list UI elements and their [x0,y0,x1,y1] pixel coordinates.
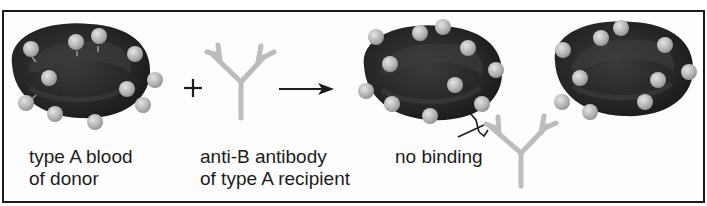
no-binding-label-text: no binding [395,146,483,168]
plus-sign [184,79,202,97]
antibody-label-line-2: of type A recipient [200,168,350,190]
donor-label-line-1: type A blood [29,146,133,168]
donor-red-blood-cell [12,23,163,130]
result-red-blood-cell [358,19,504,124]
arrow-right [279,83,334,95]
unbound-antibody-icon [486,116,556,186]
no-binding-label: no binding [395,146,483,168]
donor-label-line-2: of donor [29,168,133,190]
antibody-label-line-1: anti-B antibody [200,146,350,168]
donor-label: type A blood of donor [29,146,133,190]
anti-b-antibody-icon [207,45,274,118]
antibody-label: anti-B antibody of type A recipient [200,146,350,190]
second-red-blood-cell [554,20,697,120]
